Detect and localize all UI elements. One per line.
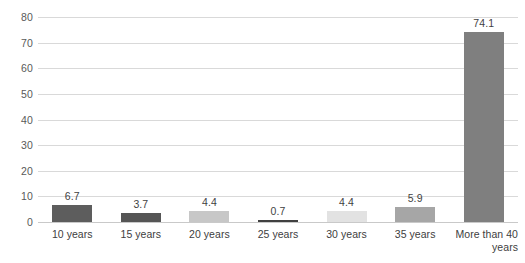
bar (464, 32, 504, 222)
bar-group: 6.7 (38, 17, 107, 222)
y-tick-label: 20 (21, 165, 33, 177)
y-tick-label: 70 (21, 37, 33, 49)
bar (121, 213, 161, 222)
x-tick-label: 10 years (38, 228, 107, 241)
plot-area: 6.73.74.40.74.45.974.1 (38, 17, 518, 222)
bar-group: 5.9 (381, 17, 450, 222)
x-axis: 10 years15 years20 years25 years30 years… (38, 228, 518, 263)
bar (258, 220, 298, 222)
bar-value-label: 5.9 (408, 192, 423, 204)
bar-value-label: 0.7 (271, 205, 286, 217)
y-axis: 01020304050607080 (0, 17, 33, 222)
bar (52, 205, 92, 222)
bar-group: 4.4 (312, 17, 381, 222)
y-tick-label: 60 (21, 62, 33, 74)
bar-group: 3.7 (107, 17, 176, 222)
bar-value-label: 6.7 (65, 190, 80, 202)
y-tick-label: 80 (21, 11, 33, 23)
x-tick-label: 30 years (312, 228, 381, 241)
x-tick-label: 20 years (175, 228, 244, 241)
bar-chart: 01020304050607080 6.73.74.40.74.45.974.1… (0, 0, 525, 263)
bar-group: 0.7 (244, 17, 313, 222)
bar-value-label: 4.4 (339, 196, 354, 208)
y-tick-label: 30 (21, 139, 33, 151)
y-tick-label: 50 (21, 88, 33, 100)
x-tick-label: 35 years (381, 228, 450, 241)
x-tick-label: More than 40 years (449, 228, 518, 254)
y-tick-label: 40 (21, 114, 33, 126)
bar (327, 211, 367, 222)
bar-group: 74.1 (449, 17, 518, 222)
bar-value-label: 74.1 (473, 17, 494, 29)
bar (395, 207, 435, 222)
x-tick-label: 25 years (244, 228, 313, 241)
bar (189, 211, 229, 222)
axis-baseline (38, 222, 518, 223)
y-tick-label: 10 (21, 190, 33, 202)
y-tick-label: 0 (27, 216, 33, 228)
bar-group: 4.4 (175, 17, 244, 222)
bar-value-label: 4.4 (202, 196, 217, 208)
bar-value-label: 3.7 (133, 198, 148, 210)
x-tick-label: 15 years (107, 228, 176, 241)
